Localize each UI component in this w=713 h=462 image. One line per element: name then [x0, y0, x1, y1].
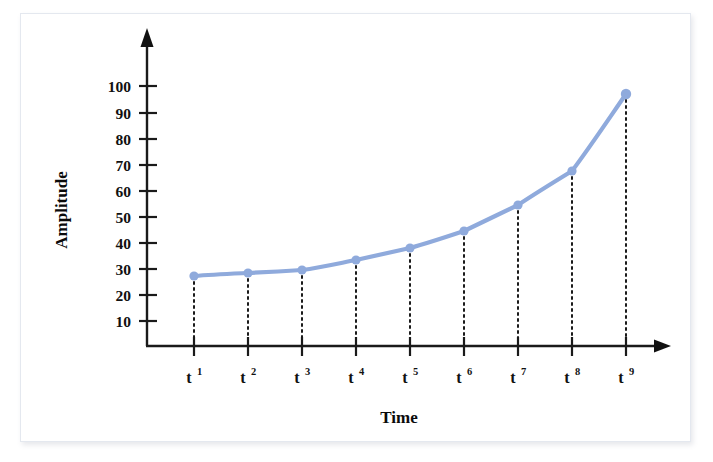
svg-text:t: t: [186, 369, 192, 386]
svg-text:3: 3: [305, 366, 310, 377]
x-tick-label: t 3: [294, 366, 310, 386]
svg-text:t: t: [456, 369, 462, 386]
x-axis-title: Time: [380, 408, 418, 427]
y-axis: [141, 28, 154, 346]
x-tick-label: t 2: [240, 366, 256, 386]
x-tick-label: t 9: [618, 366, 634, 386]
svg-text:t: t: [294, 369, 300, 386]
svg-text:1: 1: [197, 366, 202, 377]
y-tick-label: 100: [108, 78, 132, 95]
svg-text:5: 5: [413, 366, 418, 377]
y-axis-title: Amplitude: [52, 171, 71, 249]
figure-root: 100 90 80 70 60 50 40 30 20 10: [0, 0, 713, 462]
x-tick-label: t 7: [510, 366, 526, 386]
y-axis-tick-labels: 100 90 80 70 60 50 40 30 20 10: [108, 78, 132, 330]
svg-text:7: 7: [521, 366, 526, 377]
y-tick-label: 80: [116, 131, 132, 148]
y-tick-label: 10: [116, 313, 132, 330]
x-axis: [146, 340, 671, 353]
data-markers: [189, 89, 631, 281]
x-tick-label: t 6: [456, 366, 472, 386]
y-tick-label: 40: [116, 235, 132, 252]
data-point: [513, 200, 522, 209]
svg-text:t: t: [402, 369, 408, 386]
data-point: [459, 226, 468, 235]
x-tick-label: t 5: [402, 366, 418, 386]
data-point: [189, 271, 198, 280]
line-chart: 100 90 80 70 60 50 40 30 20 10: [21, 14, 690, 441]
y-tick-label: 50: [116, 209, 132, 226]
droplines: [194, 94, 626, 338]
svg-text:2: 2: [251, 366, 256, 377]
data-point: [351, 255, 360, 264]
svg-text:t: t: [348, 369, 354, 386]
svg-text:t: t: [564, 369, 570, 386]
data-point: [405, 243, 414, 252]
svg-text:4: 4: [359, 366, 365, 377]
x-axis-tick-labels: t 1 t 2 t 3 t 4 t 5: [186, 366, 634, 386]
svg-text:6: 6: [467, 366, 472, 377]
svg-text:t: t: [510, 369, 516, 386]
svg-text:t: t: [618, 369, 624, 386]
y-tick-label: 20: [116, 287, 132, 304]
data-point: [297, 265, 306, 274]
y-tick-label: 70: [116, 157, 132, 174]
y-tick-label: 60: [116, 183, 132, 200]
y-tick-label: 30: [116, 261, 132, 278]
x-axis-arrow-icon: [654, 340, 671, 353]
data-point: [621, 89, 631, 99]
data-point: [567, 166, 576, 175]
svg-text:9: 9: [629, 366, 634, 377]
svg-text:t: t: [240, 369, 246, 386]
data-point: [243, 268, 252, 277]
y-axis-arrow-icon: [141, 28, 154, 47]
x-tick-label: t 1: [186, 366, 202, 386]
x-tick-label: t 4: [348, 366, 365, 386]
x-tick-label: t 8: [564, 366, 580, 386]
svg-text:8: 8: [575, 366, 580, 377]
figure-frame: 100 90 80 70 60 50 40 30 20 10: [20, 13, 691, 442]
y-tick-label: 90: [116, 105, 132, 122]
